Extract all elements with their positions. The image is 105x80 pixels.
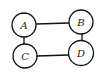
node-b-label: B xyxy=(76,17,84,28)
node-b: B xyxy=(69,10,93,34)
node-d-label: D xyxy=(76,48,85,59)
node-c-label: C xyxy=(21,51,29,62)
node-d: D xyxy=(69,41,94,66)
node-a: A xyxy=(12,13,36,37)
node-a-label: A xyxy=(19,20,27,31)
node-c: C xyxy=(13,44,37,68)
graph-diagram: A B C D xyxy=(0,0,105,80)
edge-a-b xyxy=(36,23,69,24)
edge-c-d xyxy=(37,55,69,56)
